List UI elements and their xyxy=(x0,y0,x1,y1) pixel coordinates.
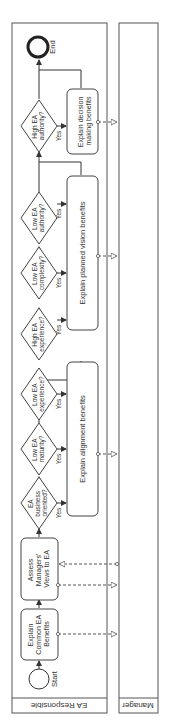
svg-text:High EA authority?: High EA authority? xyxy=(31,111,46,140)
start-event xyxy=(29,669,49,689)
yes-label: Yes xyxy=(55,324,62,335)
yes-label: Yes xyxy=(55,507,62,518)
yes-label: Yes xyxy=(55,130,62,141)
yes-label: Yes xyxy=(55,453,62,464)
yes-label: Yes xyxy=(55,277,62,288)
task-label: Explain decision making benefits xyxy=(77,95,93,148)
lane-label-ea: EA Responsible xyxy=(30,701,87,710)
svg-text:Low EA authority?: Low EA authority? xyxy=(31,203,46,232)
yes-label: Yes xyxy=(55,398,62,409)
end-label: End xyxy=(48,40,57,53)
task-label: Explain alignment benefits xyxy=(78,395,87,483)
svg-text:Low EA maturity?: Low EA maturity? xyxy=(31,435,46,462)
yes-label: Yes xyxy=(55,208,62,219)
lane-manager xyxy=(119,23,158,713)
task-label: Explain planned vision benefits xyxy=(78,201,87,304)
end-event xyxy=(28,37,48,57)
lane-label-manager: Manager xyxy=(122,701,154,710)
start-label: Start xyxy=(50,670,59,687)
bpmn-diagram: EA Responsible Manager Start End Explain… xyxy=(0,0,169,721)
